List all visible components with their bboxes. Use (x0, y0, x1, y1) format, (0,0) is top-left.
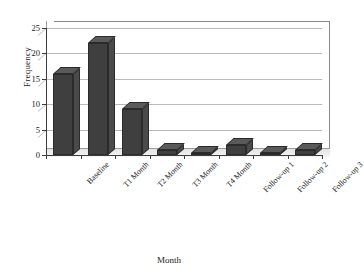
bar-follow-up-1 (226, 145, 246, 155)
y-tick-label: 20 (32, 48, 41, 58)
bar-top (260, 146, 288, 153)
bar-face (53, 74, 73, 155)
gridline (46, 28, 322, 29)
x-tick-label: T4 Month (225, 160, 254, 189)
x-tick-label: T2 Month (156, 160, 185, 189)
bar-side (73, 68, 80, 155)
x-axis-line (46, 155, 322, 156)
y-axis-title: Frequency (22, 12, 32, 122)
y-tick-label: 0 (36, 150, 40, 160)
x-tick-label: Follow-up 2 (296, 160, 330, 194)
bar-face (226, 145, 246, 155)
x-tick-label: T1 Month (121, 160, 150, 189)
bar-side (108, 37, 115, 155)
y-tick-label: 15 (32, 74, 41, 84)
x-tick-label: T3 Month (190, 160, 219, 189)
bar-t2-month (122, 109, 142, 155)
x-axis-title: Month (0, 255, 338, 265)
bar-baseline (53, 74, 73, 155)
x-tick-label: Baseline (85, 160, 111, 186)
x-tick-label: Follow-up 3 (330, 160, 364, 194)
bar-top (191, 146, 219, 153)
y-tick-label: 25 (32, 23, 41, 33)
bar-face (88, 43, 108, 155)
y-tick-label: 5 (36, 125, 40, 135)
bar-t1-month (88, 43, 108, 155)
plot-area: 0510152025 (46, 28, 322, 155)
bar-face (122, 109, 142, 155)
x-tick-mark (322, 155, 323, 159)
y-tick-label: 10 (32, 99, 41, 109)
y-axis-line (46, 28, 47, 155)
x-tick-label: Follow-up 1 (261, 160, 295, 194)
bar-side (142, 103, 149, 155)
